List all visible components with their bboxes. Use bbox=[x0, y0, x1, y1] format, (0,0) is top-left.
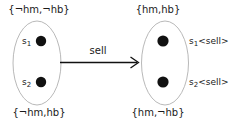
target-cluster-top-label: {hm,hb} bbox=[123, 4, 193, 16]
transition-label: sell bbox=[75, 45, 121, 57]
source-state-label-2: s2 bbox=[22, 77, 31, 91]
target-state-label-1: s1<sell> bbox=[189, 36, 228, 50]
source-cluster-bottom-label: {¬hm,hb} bbox=[0, 107, 78, 119]
source-state-subscript-1: 1 bbox=[27, 40, 31, 48]
source-state-dot-1 bbox=[36, 36, 46, 46]
source-cluster-top-label: {¬hm,¬hb} bbox=[0, 4, 78, 16]
source-state-dot-2 bbox=[36, 77, 46, 87]
target-state-label-2: s2<sell> bbox=[189, 77, 228, 91]
source-cluster-ellipse bbox=[13, 21, 61, 105]
source-state-label-1: s1 bbox=[22, 36, 31, 50]
target-state-suffix-1: <sell> bbox=[198, 36, 228, 46]
target-state-suffix-2: <sell> bbox=[198, 77, 228, 87]
target-cluster-bottom-label: {hm,¬hb} bbox=[118, 107, 198, 119]
source-state-subscript-2: 2 bbox=[27, 81, 31, 89]
target-state-dot-2 bbox=[157, 76, 168, 87]
state-transition-diagram: {¬hm,¬hb} {¬hm,hb} {hm,hb} {hm,¬hb} s1 s… bbox=[0, 0, 234, 126]
target-cluster-ellipse bbox=[142, 21, 189, 105]
target-state-dot-1 bbox=[157, 35, 168, 46]
